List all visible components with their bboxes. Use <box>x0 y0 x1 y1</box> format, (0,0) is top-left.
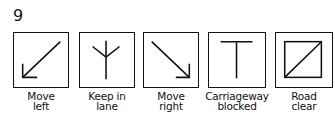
label-road-clear: Road clear <box>264 91 335 111</box>
figure-number: 9 <box>13 8 23 24</box>
sign-keep-in-lane <box>79 32 135 88</box>
arrow-down-right-icon <box>144 33 198 87</box>
t-bar-icon <box>209 33 265 87</box>
sign-carriageway-blocked <box>208 32 266 88</box>
diagonal-square-icon <box>276 33 332 87</box>
arrow-down-left-icon <box>14 33 68 87</box>
y-fork-icon <box>80 33 134 87</box>
sign-road-clear <box>275 32 333 88</box>
sign-move-left <box>13 32 69 88</box>
sign-move-right <box>143 32 199 88</box>
